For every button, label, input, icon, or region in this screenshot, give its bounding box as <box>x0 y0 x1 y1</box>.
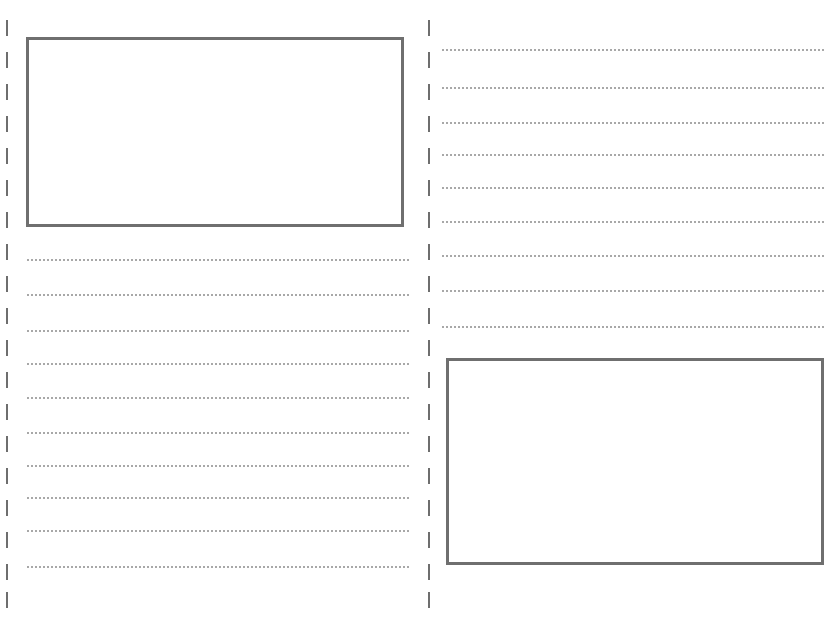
fold-dash <box>6 308 8 324</box>
fold-dash <box>6 276 8 292</box>
fold-dash <box>428 116 430 132</box>
fold-dash <box>6 340 8 356</box>
fold-dash <box>6 244 8 260</box>
fold-dash <box>6 180 8 196</box>
fold-dash <box>6 468 8 484</box>
writing-line <box>27 363 409 365</box>
fold-dash <box>6 148 8 164</box>
fold-line-middle <box>428 0 430 619</box>
fold-dash <box>428 468 430 484</box>
writing-line <box>27 294 409 296</box>
writing-line <box>27 259 409 261</box>
fold-dash <box>428 276 430 292</box>
fold-dash <box>428 564 430 580</box>
fold-dash <box>428 52 430 68</box>
writing-line <box>442 154 824 156</box>
fold-dash <box>6 532 8 548</box>
writing-line <box>442 49 824 51</box>
writing-line <box>442 187 824 189</box>
writing-line <box>27 397 409 399</box>
fold-dash <box>428 180 430 196</box>
fold-dash <box>6 52 8 68</box>
fold-dash <box>6 372 8 388</box>
fold-dash <box>428 20 430 36</box>
fold-dash <box>6 564 8 580</box>
fold-dash <box>6 212 8 228</box>
fold-dash <box>6 500 8 516</box>
writing-line <box>442 122 824 124</box>
fold-dash <box>428 84 430 100</box>
fold-dash <box>428 532 430 548</box>
fold-dash <box>428 500 430 516</box>
writing-line <box>442 326 824 328</box>
fold-dash <box>428 148 430 164</box>
writing-line <box>442 255 824 257</box>
fold-dash <box>428 308 430 324</box>
writing-line <box>27 566 409 568</box>
fold-line-left <box>6 0 8 619</box>
fold-dash <box>428 404 430 420</box>
writing-line <box>442 87 824 89</box>
fold-dash <box>6 404 8 420</box>
writing-line <box>442 221 824 223</box>
writing-line <box>27 465 409 467</box>
fold-dash <box>428 212 430 228</box>
fold-dash <box>428 340 430 356</box>
fold-dash <box>6 20 8 36</box>
fold-dash <box>428 436 430 452</box>
writing-line <box>27 432 409 434</box>
fold-dash <box>6 436 8 452</box>
fold-dash <box>428 372 430 388</box>
writing-line <box>27 497 409 499</box>
right-picture-box <box>446 358 824 565</box>
fold-dash <box>6 116 8 132</box>
fold-dash <box>428 592 430 608</box>
writing-line <box>442 290 824 292</box>
fold-dash <box>6 592 8 608</box>
fold-dash <box>428 244 430 260</box>
fold-dash <box>6 84 8 100</box>
worksheet-page <box>0 0 834 619</box>
writing-line <box>27 530 409 532</box>
left-picture-box <box>26 37 404 227</box>
writing-line <box>27 330 409 332</box>
